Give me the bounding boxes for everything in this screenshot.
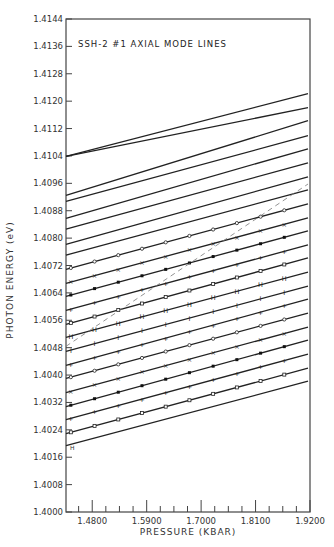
data-point-glyph: + (187, 328, 192, 336)
data-point-glyph: × (210, 240, 215, 248)
data-point-circle (188, 344, 191, 347)
data-point-glyph: H (234, 288, 239, 296)
series-layer: ××××××××××++++++++++HHHHHHHHHHIIIIIIIIII… (66, 94, 308, 446)
data-point-glyph: I (117, 334, 119, 342)
y-tick-label: 1.4048 (33, 343, 63, 353)
data-point-glyph: + (210, 322, 215, 330)
data-point-circle (117, 363, 120, 366)
data-point-filled (188, 371, 191, 374)
data-point-glyph: H (282, 275, 287, 283)
data-point-filled (69, 294, 72, 297)
mode-line (66, 204, 308, 269)
mode-line (66, 163, 308, 229)
mode-line (66, 190, 308, 255)
y-axis-title: PHOTON ENERGY (eV) (5, 221, 15, 338)
data-point-filled (93, 397, 96, 400)
data-point-glyph: + (282, 248, 287, 256)
data-point-circle (188, 234, 191, 237)
data-point-circle (164, 241, 167, 244)
mode-line (66, 286, 308, 351)
y-tick-label: 1.4000 (33, 507, 63, 517)
data-point-circle (140, 247, 143, 250)
mode-line (66, 258, 308, 324)
y-tick-label: 1.4064 (33, 288, 63, 298)
data-point-glyph: I (283, 289, 285, 297)
data-point-square (140, 412, 143, 415)
data-point-square (188, 399, 191, 402)
data-point-filled (140, 384, 143, 387)
y-tick-label: 1.4120 (33, 96, 63, 106)
data-point-glyph: × (210, 349, 215, 357)
data-point-glyph: I (212, 308, 214, 316)
y-tick-label: 1.4080 (33, 233, 63, 243)
data-point-glyph: + (258, 254, 263, 262)
y-tick-label: 1.4128 (33, 69, 63, 79)
data-point-glyph: × (163, 362, 168, 370)
data-point-glyph: + (139, 286, 144, 294)
mode-line (66, 177, 308, 244)
mode-line (66, 368, 308, 433)
x-tick-label: 1.4800 (77, 516, 107, 526)
data-point-square (259, 269, 262, 272)
y-tick-label: 1.4104 (33, 151, 63, 161)
data-point-square (212, 392, 215, 395)
data-point-glyph: + (116, 348, 121, 356)
data-point-square (235, 386, 238, 389)
data-point-glyph: × (139, 259, 144, 267)
data-point-glyph: I (188, 315, 190, 323)
data-point-glyph: × (258, 336, 263, 344)
data-point-glyph: + (92, 354, 97, 362)
data-point-circle (283, 209, 286, 212)
data-point-circle (164, 350, 167, 353)
y-tick-label: 1.4024 (33, 425, 63, 435)
data-point-square (93, 315, 96, 318)
data-point-filled (212, 365, 215, 368)
data-point-circle (140, 356, 143, 359)
data-point-glyph: I (70, 347, 72, 355)
data-point-glyph: H (68, 333, 73, 341)
data-point-glyph: H (92, 326, 97, 334)
data-point-glyph: × (116, 266, 121, 274)
data-point-glyph: + (68, 361, 73, 369)
data-point-filled (69, 404, 72, 407)
x-tick-label: 1.8100 (241, 516, 271, 526)
data-point-glyph: H (258, 281, 263, 289)
data-point-glyph: + (116, 402, 121, 410)
data-point-square (164, 405, 167, 408)
data-point-glyph: + (139, 396, 144, 404)
data-point-circle (93, 260, 96, 263)
data-point-filled (140, 274, 143, 277)
plot-border (66, 19, 310, 512)
data-point-glyph: × (92, 272, 97, 280)
data-point-circle (283, 318, 286, 321)
data-point-glyph: × (258, 227, 263, 235)
data-point-glyph: × (116, 375, 121, 383)
data-point-filled (259, 352, 262, 355)
mode-line (66, 231, 308, 296)
data-point-circle (117, 254, 120, 257)
data-point-glyph: × (234, 343, 239, 351)
data-point-glyph: + (258, 309, 263, 317)
data-point-square (259, 380, 262, 383)
y-tick-label: 1.4072 (33, 261, 63, 271)
data-point-glyph: + (282, 302, 287, 310)
data-point-glyph: + (187, 273, 192, 281)
x-tick-label: 1.7000 (186, 516, 216, 526)
data-point-square (235, 276, 238, 279)
data-point-glyph: H (211, 294, 216, 302)
data-point-glyph: + (210, 376, 215, 384)
data-point-filled (283, 236, 286, 239)
data-point-circle (235, 221, 238, 224)
data-point-glyph: × (163, 253, 168, 261)
x-tick-label: 1.9200 (295, 516, 325, 526)
data-point-filled (117, 281, 120, 284)
annotation-layer: H (70, 444, 75, 451)
data-point-glyph: H (163, 307, 168, 315)
data-point-glyph: H (116, 320, 121, 328)
data-point-glyph: I (260, 295, 262, 303)
data-point-circle (69, 266, 72, 269)
y-tick-label: 1.4136 (33, 41, 63, 51)
data-point-glyph: × (282, 221, 287, 229)
data-point-glyph: + (163, 335, 168, 343)
y-tick-label: 1.4088 (33, 206, 63, 216)
